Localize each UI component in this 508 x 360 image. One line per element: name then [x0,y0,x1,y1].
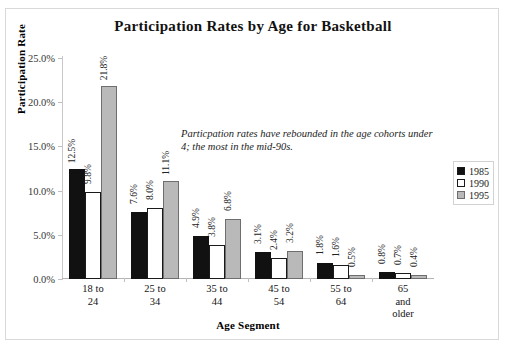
x-axis-group-separator [248,278,249,282]
bar-value-label: 3.2% [285,223,295,243]
bar[interactable] [147,208,163,279]
bar-group: 1.8%1.6%0.5%55 to64 [310,58,372,279]
chart-annotation: Particpation rates have rebounded in the… [181,127,433,153]
category-label-line: 25 to [124,283,186,296]
bar[interactable] [69,169,85,280]
legend-item-label: 1995 [469,190,489,201]
bar-value-label: 3.1% [253,224,263,244]
bar-slot: 3.2% [287,58,303,279]
bar-group-bars: 0.8%0.7%0.4% [372,58,434,279]
bar[interactable] [225,219,241,279]
bar[interactable] [333,265,349,279]
bar[interactable] [287,251,303,279]
bar[interactable] [163,181,179,279]
bar-group: 0.8%0.7%0.4%65andolder [372,58,434,279]
bar[interactable] [317,263,333,279]
bar[interactable] [395,273,411,279]
chart-legend: 198519901995 [453,161,494,205]
legend-item-label: 1985 [469,166,489,177]
y-axis-tick-label: 10.0% [28,185,55,196]
legend-item[interactable]: 1995 [457,189,489,201]
x-axis-category-label: 55 to64 [310,283,372,308]
bar-value-label: 0.5% [347,247,357,267]
bar[interactable] [131,212,147,279]
legend-item[interactable]: 1985 [457,165,489,177]
bar[interactable] [209,245,225,279]
legend-swatch-icon [457,167,465,175]
x-axis-group-separator [372,278,373,282]
category-label-line: 64 [310,296,372,309]
x-axis-category-label: 35 to44 [186,283,248,308]
bar-slot: 0.4% [411,58,427,279]
bar-group: 4.9%3.8%6.8%35 to44 [186,58,248,279]
bar-slot: 21.8% [101,58,117,279]
bar-slot: 0.7% [395,58,411,279]
bar-group: 7.6%8.0%11.1%25 to34 [124,58,186,279]
bar-value-label: 21.8% [99,56,109,81]
bar-value-label: 2.4% [269,230,279,250]
category-label-line: 24 [62,296,124,309]
bar-group-bars: 12.5%9.8%21.8% [62,58,124,279]
y-axis-label: Participation Rate [15,24,27,114]
category-label-line: 35 to [186,283,248,296]
bar-slot: 9.8% [85,58,101,279]
legend-swatch-icon [457,179,465,187]
x-axis-label: Age Segment [62,319,434,331]
bar-value-label: 12.5% [67,138,77,163]
bar-slot: 1.6% [333,58,349,279]
category-label-line: 54 [248,296,310,309]
bar-slot: 11.1% [163,58,179,279]
legend-item[interactable]: 1990 [457,177,489,189]
x-axis-category-label: 18 to24 [62,283,124,308]
category-label-line: 45 to [248,283,310,296]
bar-group-bars: 4.9%3.8%6.8% [186,58,248,279]
bar-value-label: 0.8% [377,244,387,264]
bar-slot: 7.6% [131,58,147,279]
bar-slot: 0.5% [349,58,365,279]
bar-value-label: 8.0% [145,180,155,200]
legend-item-label: 1990 [469,178,489,189]
category-label-line: 18 to [62,283,124,296]
bar[interactable] [85,192,101,279]
bar-slot: 6.8% [225,58,241,279]
bar-slot: 3.8% [209,58,225,279]
x-axis-group-separator [186,278,187,282]
chart-title: Participation Rates by Age for Basketbal… [6,18,500,35]
bar-slot: 4.9% [193,58,209,279]
bar-value-label: 4.9% [191,208,201,228]
x-axis-group-separator [310,278,311,282]
category-label-line: 65 [372,283,434,296]
y-axis-tick-label: 25.0% [28,53,55,64]
bar[interactable] [349,275,365,279]
y-axis-tick-mark [58,279,62,280]
category-label-line: and [372,296,434,309]
bar[interactable] [271,258,287,279]
bar-value-label: 0.4% [409,248,419,268]
bar[interactable] [101,86,117,279]
chart-frame: Participation Rates by Age for Basketbal… [5,8,499,340]
x-axis-category-label: 45 to54 [248,283,310,308]
bar-group: 12.5%9.8%21.8%18 to24 [62,58,124,279]
y-axis-tick-label: 5.0% [33,229,55,240]
bar-value-label: 9.8% [83,164,93,184]
category-label-line: 34 [124,296,186,309]
bar[interactable] [255,252,271,279]
legend-swatch-icon [457,191,465,199]
x-axis-group-separator [124,278,125,282]
bar[interactable] [411,275,427,279]
y-axis-tick-label: 15.0% [28,141,55,152]
bar-value-label: 11.1% [161,151,171,175]
bar[interactable] [193,236,209,279]
bar[interactable] [379,272,395,279]
plot-area: 0.0%5.0%10.0%15.0%20.0%25.0% 12.5%9.8%21… [62,58,434,279]
bar-value-label: 1.6% [331,237,341,257]
x-axis-category-label: 65andolder [372,283,434,321]
bar-value-label: 0.7% [393,245,403,265]
bar-group: 3.1%2.4%3.2%45 to54 [248,58,310,279]
category-label-line: 55 to [310,283,372,296]
bar-value-label: 3.8% [207,218,217,238]
category-label-line: 44 [186,296,248,309]
bar-group-bars: 1.8%1.6%0.5% [310,58,372,279]
x-axis-category-label: 25 to34 [124,283,186,308]
bar-value-label: 6.8% [223,191,233,211]
